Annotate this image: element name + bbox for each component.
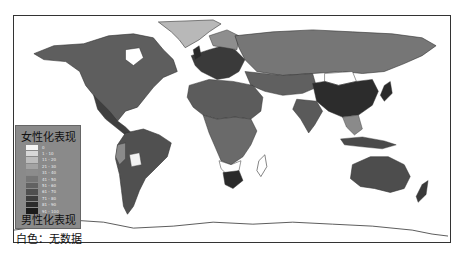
legend-swatch [26, 170, 38, 175]
legend-title-feminine: 女性化表现 [16, 128, 80, 144]
map-frame: 女性化表现 0 1 - 10 11 - 20 21 - 30 31 - 40 4… [13, 15, 451, 243]
legend-swatch [26, 189, 38, 194]
region-indonesia [341, 137, 397, 149]
region-bolivia [129, 153, 141, 167]
no-data-note: 白色：无数据 [16, 230, 82, 246]
legend-swatch [26, 157, 38, 162]
legend-swatch [26, 145, 38, 150]
region-japan [380, 81, 392, 101]
region-greenland [158, 20, 221, 48]
region-russia [235, 30, 436, 76]
region-madagascar [257, 155, 267, 177]
region-central-africa [203, 115, 257, 165]
legend-swatch [26, 196, 38, 201]
region-south-africa [223, 171, 243, 189]
legend-swatch [26, 183, 38, 188]
legend: 女性化表现 0 1 - 10 11 - 20 21 - 30 31 - 40 4… [15, 125, 81, 229]
legend-swatch [26, 176, 38, 181]
region-southeast-asia [342, 115, 362, 135]
legend-title-masculine: 男性化表现 [16, 211, 80, 227]
legend-swatch [26, 151, 38, 156]
legend-swatch [26, 202, 38, 207]
region-australia [350, 157, 410, 193]
legend-rows: 0 1 - 10 11 - 20 21 - 30 31 - 40 41 - 50… [26, 144, 76, 214]
region-scandinavia [209, 30, 239, 50]
legend-swatch [26, 164, 38, 169]
region-north-africa [187, 79, 263, 119]
region-south-america [116, 129, 172, 214]
region-new-zealand [416, 181, 428, 203]
region-india [293, 99, 323, 133]
